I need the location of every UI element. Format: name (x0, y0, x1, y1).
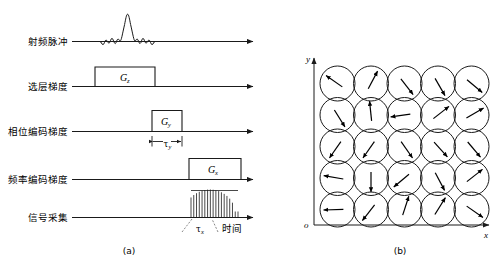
spin-vector-arrow (468, 142, 481, 157)
row-label-freq: 频率编码梯度 (8, 174, 68, 185)
spin-vector-arrow (368, 71, 377, 89)
spin-vector-arrow (326, 75, 342, 86)
row-label-phase: 相位编码梯度 (8, 126, 68, 137)
b-y-axis-label: y (305, 54, 310, 64)
tau-y-duration-marker: τ y (152, 136, 182, 150)
b-x-axis-label: x (483, 230, 488, 240)
spin-vector-arrow (334, 110, 345, 127)
spin-vector-arrow (391, 114, 411, 117)
spin-vector-arrow (403, 196, 409, 215)
row-label-acq: 信号采集 (28, 212, 68, 223)
panel-b: y x o (b) (304, 54, 489, 256)
spin-vector-arrow (370, 101, 372, 121)
panel-a-caption: (a) (123, 246, 136, 256)
tau-x-subscript: x (200, 228, 204, 235)
spin-vector-arrow (433, 106, 449, 118)
spin-vector-arrow (434, 142, 447, 157)
row-label-rf: 射频脉冲 (28, 36, 68, 47)
row-signal-acquisition: 信号采集 τ x 时间 (28, 190, 253, 236)
spin-vector-arrow (324, 176, 344, 179)
echo-train-signal (191, 190, 238, 218)
spin-vector-arrow (467, 206, 483, 217)
tau-y-subscript: y (168, 143, 172, 150)
spin-vector-arrow (435, 198, 446, 215)
spin-vector-arrow (329, 142, 340, 158)
row-rf-pulse: 射频脉冲 (28, 14, 253, 47)
spin-vector-arrow (362, 205, 374, 221)
pulse-sequence-figure: 射频脉冲 选层梯度 G z 相位编码梯度 G y (0, 0, 501, 264)
panel-b-caption: (b) (394, 246, 407, 256)
rf-sinc-waveform (96, 14, 160, 44)
spin-vector-arrow (467, 80, 482, 93)
panel-a: 射频脉冲 选层梯度 G z 相位编码梯度 G y (8, 14, 253, 256)
spin-vector-arrow (435, 78, 445, 95)
spin-grid (320, 66, 489, 227)
spin-vector-arrow (401, 79, 413, 95)
b-origin-label: o (304, 220, 309, 230)
spin-vector-arrow (363, 142, 374, 158)
tau-x-duration-marker: τ x (182, 219, 218, 235)
figure-root: 射频脉冲 选层梯度 G z 相位编码梯度 G y (0, 0, 501, 264)
spin-vector-arrow (466, 108, 483, 118)
spin-vector-arrow (324, 209, 344, 210)
spin-vector-arrow (435, 173, 444, 191)
time-axis-label: 时间 (222, 223, 242, 234)
row-phase-gradient: 相位编码梯度 G y τ y (8, 111, 253, 150)
row-label-slice: 选层梯度 (28, 81, 68, 92)
spin-vector-arrow (401, 142, 412, 158)
row-freq-gradient: 频率编码梯度 G x (8, 159, 253, 186)
gz-subscript: z (126, 77, 130, 84)
gx-subscript: x (214, 169, 218, 176)
spin-vector-arrow (394, 174, 409, 187)
spin-vector-arrow (467, 169, 483, 181)
gy-subscript: y (167, 121, 171, 128)
row-slice-gradient: 选层梯度 G z (28, 67, 253, 92)
